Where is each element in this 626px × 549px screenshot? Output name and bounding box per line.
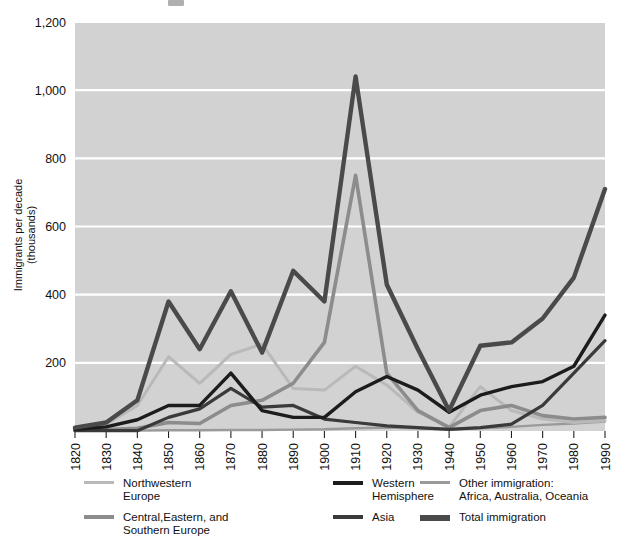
y-tick-label: 800 xyxy=(45,152,66,166)
x-tick-label: 1930 xyxy=(411,443,425,471)
x-tick-label: 1910 xyxy=(349,443,363,471)
x-tick-label: 1880 xyxy=(256,443,270,471)
legend-color-swatch xyxy=(420,481,450,484)
x-tick-label: 1990 xyxy=(599,443,613,471)
y-axis-title: Immigrants per decade (thousands) xyxy=(12,179,37,292)
legend-item[interactable]: Asia xyxy=(333,511,394,524)
svg-text:(thousands): (thousands) xyxy=(25,206,37,264)
x-tick-label: 1870 xyxy=(224,443,238,471)
legend-item-label: Asia xyxy=(372,511,394,524)
legend-item[interactable]: Northwestern Europe xyxy=(84,477,191,502)
x-tick-label: 1980 xyxy=(567,443,581,471)
legend-item-label: Central,Eastern, and Southern Europe xyxy=(123,511,228,536)
x-tick-label: 1820 xyxy=(69,443,83,471)
y-tick-label: 1,000 xyxy=(35,84,66,98)
legend-item[interactable]: Western Hemisphere xyxy=(333,477,434,502)
x-tick-label: 1890 xyxy=(287,443,301,471)
y-tick-label: 600 xyxy=(45,220,66,234)
x-tick-label: 1920 xyxy=(380,443,394,471)
y-tick-label: 200 xyxy=(45,356,66,370)
legend-color-swatch xyxy=(333,481,363,485)
x-tick-label: 1970 xyxy=(536,443,550,471)
svg-text:Immigrants per decade: Immigrants per decade xyxy=(12,179,24,292)
legend-item[interactable]: Other immigration: Africa, Australia, Oc… xyxy=(420,477,588,502)
x-tick-label: 1900 xyxy=(318,443,332,471)
x-tick-label: 1950 xyxy=(474,443,488,471)
chart-plot-svg: 1,2001,000800600400200 Immigrants per de… xyxy=(0,0,626,475)
legend-item-label: Northwestern Europe xyxy=(123,477,191,502)
legend-color-swatch xyxy=(84,481,114,484)
x-tick-label: 1940 xyxy=(443,443,457,471)
y-tick-label: 1,200 xyxy=(35,16,66,30)
legend-color-swatch xyxy=(420,515,450,521)
y-axis-tick-labels: 1,2001,000800600400200 xyxy=(35,16,66,371)
legend-item-label: Other immigration: Africa, Australia, Oc… xyxy=(459,477,588,502)
legend-item[interactable]: Central,Eastern, and Southern Europe xyxy=(84,511,228,536)
legend-item-label: Total immigration xyxy=(459,511,546,524)
x-tick-label: 1830 xyxy=(100,443,114,471)
chart-legend: Northwestern EuropeCentral,Eastern, and … xyxy=(0,475,626,549)
immigration-line-chart-figure: 1,2001,000800600400200 Immigrants per de… xyxy=(0,0,626,549)
x-tick-label: 1860 xyxy=(193,443,207,471)
x-axis-tick-labels: 1820183018401850186018701880189019001910… xyxy=(69,431,613,471)
x-tick-label: 1960 xyxy=(505,443,519,471)
legend-color-swatch xyxy=(84,515,114,519)
legend-item[interactable]: Total immigration xyxy=(420,511,546,524)
x-tick-label: 1840 xyxy=(131,443,145,471)
y-tick-label: 400 xyxy=(45,288,66,302)
x-tick-label: 1850 xyxy=(162,443,176,471)
legend-color-swatch xyxy=(333,515,363,519)
